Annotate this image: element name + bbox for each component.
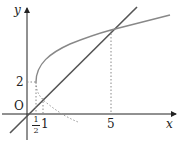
graph-canvas bbox=[0, 0, 183, 143]
upper-curve bbox=[36, 15, 170, 82]
x-tick-1: 1 bbox=[41, 118, 49, 130]
x-tick-half-denominator: 2 bbox=[33, 126, 38, 135]
y-tick-2: 2 bbox=[16, 76, 24, 88]
x-tick-5: 5 bbox=[107, 118, 115, 130]
x-tick-half: 1 2 bbox=[32, 116, 40, 135]
x-axis-label: x bbox=[166, 118, 173, 130]
graph-diagram: y x O 2 1 2 1 5 bbox=[0, 0, 183, 143]
x-tick-half-numerator: 1 bbox=[33, 115, 38, 124]
y-axis-label: y bbox=[14, 4, 21, 16]
origin-label: O bbox=[14, 100, 24, 112]
